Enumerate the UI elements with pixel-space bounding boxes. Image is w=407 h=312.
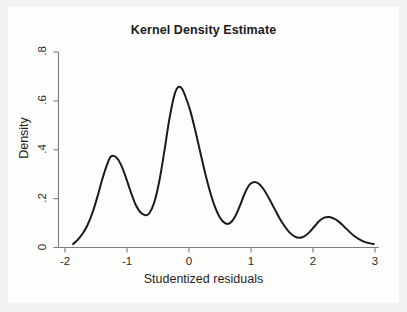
x-tick-label: 0 [186, 255, 192, 267]
x-tick-label: -2 [60, 255, 70, 267]
y-tick-label: .6 [36, 92, 48, 108]
density-curve [73, 87, 374, 244]
chart-figure: Kernel Density Estimate -2 -1 0 1 2 3 [0, 0, 407, 312]
y-tick-label: .8 [36, 43, 48, 59]
x-tick-label: 3 [372, 255, 378, 267]
y-axis-title: Density [17, 88, 31, 188]
x-axis-title: Studentized residuals [0, 272, 407, 286]
x-axis-ticks [65, 248, 375, 253]
x-tick-label: 2 [310, 255, 316, 267]
y-axis-ticks [54, 52, 59, 248]
y-tick-label: 0 [36, 239, 48, 255]
x-tick-label: -1 [122, 255, 132, 267]
x-tick-label: 1 [248, 255, 254, 267]
y-tick-label: .2 [36, 190, 48, 206]
y-tick-label: .4 [36, 141, 48, 157]
